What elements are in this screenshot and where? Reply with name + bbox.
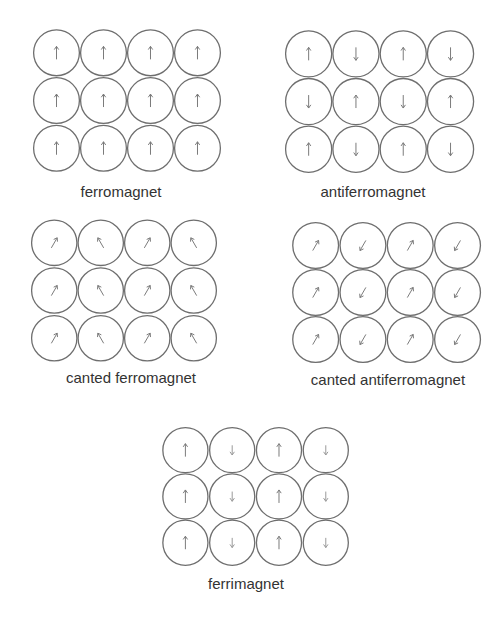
- arrow-up-icon: [277, 536, 281, 549]
- arrow-up-right-icon: [51, 285, 57, 295]
- atom-site: [171, 268, 216, 313]
- arrow-down-left-icon: [454, 240, 460, 250]
- arrow-up-icon: [101, 94, 105, 107]
- atom-site: [380, 126, 426, 172]
- label-ferrimagnet: ferrimagnet: [208, 576, 284, 591]
- atom-site: [333, 31, 379, 77]
- atom-site: [293, 223, 339, 269]
- arrow-up-icon: [183, 444, 187, 457]
- atom-site: [256, 474, 301, 519]
- panel-canted-antiferromagnet: canted antiferromagnet: [292, 222, 481, 363]
- atom-site: [293, 317, 339, 363]
- arrow-up-right-icon: [51, 238, 57, 248]
- spin-lattice-canted-antiferromagnet: [292, 222, 481, 363]
- arrow-up-icon: [448, 95, 452, 108]
- atom-site: [427, 78, 473, 124]
- arrow-down-small-icon: [324, 492, 328, 502]
- arrow-up-right-icon: [313, 334, 319, 344]
- arrow-down-icon: [306, 95, 310, 108]
- atom-site: [34, 30, 80, 76]
- arrow-up-icon: [354, 95, 358, 108]
- atom-site: [128, 30, 174, 76]
- arrow-up-left-icon: [98, 238, 104, 248]
- panel-canted-ferromagnet: canted ferromagnet: [31, 219, 217, 362]
- label-canted-ferromagnet: canted ferromagnet: [66, 370, 196, 385]
- arrow-up-right-icon: [144, 333, 150, 343]
- atom-site: [435, 270, 481, 316]
- panel-antiferromagnet: antiferromagnet: [285, 30, 474, 173]
- arrow-down-small-icon: [230, 492, 234, 502]
- arrow-up-icon: [54, 94, 58, 107]
- arrow-down-left-icon: [360, 334, 366, 344]
- arrow-up-icon: [277, 490, 281, 503]
- atom-site: [163, 428, 208, 473]
- atom-site: [380, 78, 426, 124]
- atom-site: [78, 316, 123, 361]
- label-antiferromagnet: antiferromagnet: [320, 184, 425, 199]
- atom-site: [78, 268, 123, 313]
- arrow-up-icon: [54, 142, 58, 155]
- arrow-up-right-icon: [51, 333, 57, 343]
- arrow-down-small-icon: [324, 445, 328, 455]
- atom-site: [303, 474, 348, 519]
- atom-site: [163, 474, 208, 519]
- arrow-down-small-icon: [324, 538, 328, 548]
- arrow-up-right-icon: [407, 287, 413, 297]
- atom-site: [303, 520, 348, 565]
- arrow-up-icon: [401, 143, 405, 156]
- atom-site: [293, 270, 339, 316]
- atom-site: [81, 78, 127, 124]
- atom-site: [387, 317, 433, 363]
- atom-site: [333, 126, 379, 172]
- arrow-down-icon: [448, 47, 452, 60]
- arrow-up-icon: [148, 94, 152, 107]
- atom-site: [427, 126, 473, 172]
- atom-site: [175, 78, 221, 124]
- arrow-up-icon: [306, 143, 310, 156]
- atom-site: [125, 220, 170, 265]
- atom-site: [387, 223, 433, 269]
- arrow-up-left-icon: [98, 333, 104, 343]
- arrow-up-icon: [277, 444, 281, 457]
- arrow-up-icon: [101, 142, 105, 155]
- arrow-up-right-icon: [144, 238, 150, 248]
- atom-site: [171, 316, 216, 361]
- atom-site: [128, 78, 174, 124]
- atom-site: [34, 78, 80, 124]
- arrow-down-small-icon: [230, 538, 234, 548]
- arrow-up-icon: [195, 94, 199, 107]
- arrow-up-icon: [148, 142, 152, 155]
- arrow-down-small-icon: [230, 445, 234, 455]
- arrow-up-right-icon: [144, 285, 150, 295]
- atom-site: [32, 268, 77, 313]
- arrow-down-left-icon: [360, 240, 366, 250]
- spin-lattice-canted-ferromagnet: [31, 219, 217, 362]
- atom-site: [427, 31, 473, 77]
- atom-site: [81, 125, 127, 171]
- atom-site: [435, 223, 481, 269]
- arrow-up-right-icon: [407, 240, 413, 250]
- arrow-up-icon: [401, 47, 405, 60]
- arrow-up-icon: [183, 490, 187, 503]
- atom-site: [78, 220, 123, 265]
- label-ferromagnet: ferromagnet: [81, 184, 162, 199]
- atom-site: [340, 223, 386, 269]
- atom-site: [32, 316, 77, 361]
- arrow-down-left-icon: [360, 287, 366, 297]
- atom-site: [175, 30, 221, 76]
- atom-site: [286, 78, 332, 124]
- panel-ferrimagnet: ferrimagnet: [162, 427, 349, 566]
- atom-site: [32, 220, 77, 265]
- panel-ferromagnet: ferromagnet: [33, 29, 221, 172]
- atom-site: [380, 31, 426, 77]
- arrow-up-left-icon: [191, 238, 197, 248]
- arrow-up-left-icon: [191, 333, 197, 343]
- arrow-down-icon: [401, 95, 405, 108]
- arrow-up-left-icon: [98, 285, 104, 295]
- atom-site: [303, 428, 348, 473]
- atom-site: [210, 428, 255, 473]
- arrow-up-icon: [195, 46, 199, 59]
- arrow-up-right-icon: [313, 287, 319, 297]
- atom-site: [333, 78, 379, 124]
- atom-site: [256, 520, 301, 565]
